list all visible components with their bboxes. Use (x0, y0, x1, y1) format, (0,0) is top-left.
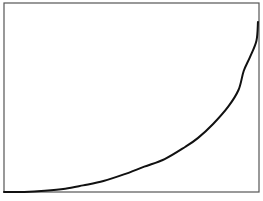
plot-frame (4, 3, 259, 192)
line-chart (0, 0, 263, 201)
plot-area (0, 0, 263, 201)
